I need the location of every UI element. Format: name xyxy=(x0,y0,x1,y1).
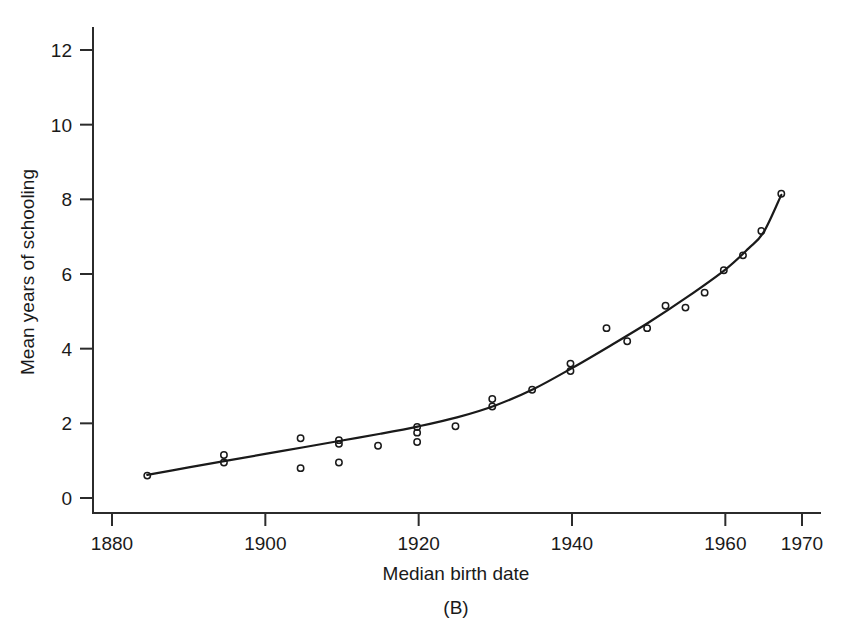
data-point xyxy=(452,423,458,429)
data-point xyxy=(682,304,688,310)
x-axis-title: Median birth date xyxy=(383,563,530,584)
y-tick-label: 0 xyxy=(61,488,72,509)
data-point xyxy=(221,452,227,458)
x-tick-label: 1940 xyxy=(551,533,593,554)
data-point xyxy=(336,459,342,465)
data-point xyxy=(567,360,573,366)
data-point xyxy=(297,465,303,471)
y-tick-label: 6 xyxy=(61,264,72,285)
data-point xyxy=(297,435,303,441)
y-tick-label: 4 xyxy=(61,339,72,360)
data-point xyxy=(489,396,495,402)
data-point xyxy=(644,325,650,331)
x-tick-label: 1880 xyxy=(91,533,133,554)
data-points xyxy=(144,191,784,479)
x-tick-label: 1960 xyxy=(704,533,746,554)
tick-marks xyxy=(80,50,802,526)
y-tick-label: 8 xyxy=(61,189,72,210)
axes xyxy=(93,28,820,513)
data-point xyxy=(375,443,381,449)
x-tick-label: 1900 xyxy=(244,533,286,554)
y-tick-labels: 024681012 xyxy=(51,40,73,509)
y-axis-title: Mean years of schooling xyxy=(17,169,38,375)
data-point xyxy=(701,289,707,295)
figure-panel-b: 188019001920194019601970 024681012 Media… xyxy=(0,0,854,636)
y-tick-label: 2 xyxy=(61,413,72,434)
x-tick-label: 1970 xyxy=(781,533,823,554)
panel-label: (B) xyxy=(443,597,468,618)
y-tick-label: 10 xyxy=(51,115,72,136)
data-point xyxy=(603,325,609,331)
y-tick-label: 12 xyxy=(51,40,72,61)
regression-curve xyxy=(147,195,781,475)
data-point xyxy=(624,338,630,344)
x-tick-label: 1920 xyxy=(398,533,440,554)
x-tick-labels: 188019001920194019601970 xyxy=(91,533,823,554)
data-point xyxy=(414,439,420,445)
scatter-plot: 188019001920194019601970 024681012 Media… xyxy=(0,0,854,636)
fit-curve xyxy=(147,195,781,475)
data-point xyxy=(662,303,668,309)
